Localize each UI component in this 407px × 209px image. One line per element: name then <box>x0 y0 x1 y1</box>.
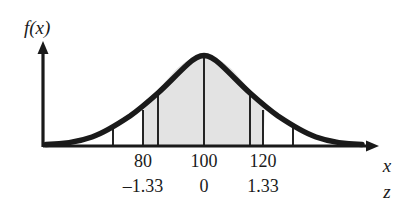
y-axis-arrowhead <box>38 41 49 54</box>
z-axis-name-label: z <box>383 182 390 201</box>
x-tick-label-120: 120 <box>250 152 277 170</box>
x-axis-arrowhead <box>366 141 379 152</box>
x-tick-label-100: 100 <box>191 152 218 170</box>
y-axis-label: f(x) <box>24 18 50 37</box>
x-axis-name-label: x <box>383 156 391 175</box>
x-tick-label-80: 80 <box>134 152 152 170</box>
y-axis <box>38 41 49 147</box>
z-tick-label-0: 0 <box>200 177 209 195</box>
normal-distribution-figure: f(x) 80 100 120 –1.33 0 1.33 x z <box>0 0 407 209</box>
z-tick-label-neg-1-33: –1.33 <box>123 177 164 195</box>
z-tick-label-1-33: 1.33 <box>247 177 279 195</box>
